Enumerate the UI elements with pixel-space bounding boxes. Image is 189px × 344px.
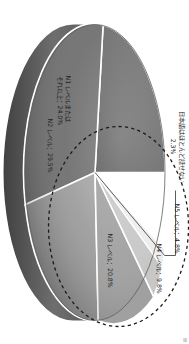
- pie-slice-n1[interactable]: [95, 25, 165, 172]
- slice-label-n1-line2: それ以上：24.0%: [56, 75, 63, 125]
- slice-label-n3: N3 レベル：20.8%: [105, 233, 113, 287]
- slice-label-n4: N4 レベル：9.8%: [154, 243, 162, 293]
- corner-mark: 図: [183, 337, 187, 343]
- rotated-figure-wrapper: N5 レベル：4.8% N4 レベル：9.8% N3 レベル：20.8% N2 …: [0, 0, 189, 344]
- pie-chart-figure: N5 レベル：4.8% N4 レベル：9.8% N3 レベル：20.8% N2 …: [0, 0, 189, 344]
- slice-annotation-none-line2: 2.3%: [168, 104, 177, 188]
- slice-label-n2: N2 レベル：29.5%: [45, 118, 53, 172]
- slice-label-n5: N5 レベル：4.8%: [172, 203, 180, 253]
- slice-label-n1-line1: N1 レベルまたは: [64, 75, 71, 122]
- chart-canvas: N5 レベル：4.8% N4 レベル：9.8% N3 レベル：20.8% N2 …: [0, 0, 189, 344]
- slice-label-n1: N1 レベルまたは それ以上：24.0%: [55, 75, 71, 135]
- slice-annotation-none-line1: 日本語はほとんど話せない: [177, 104, 186, 188]
- slice-annotation-none: 日本語はほとんど話せない 2.3%: [168, 104, 185, 188]
- pie-slices: [23, 23, 165, 323]
